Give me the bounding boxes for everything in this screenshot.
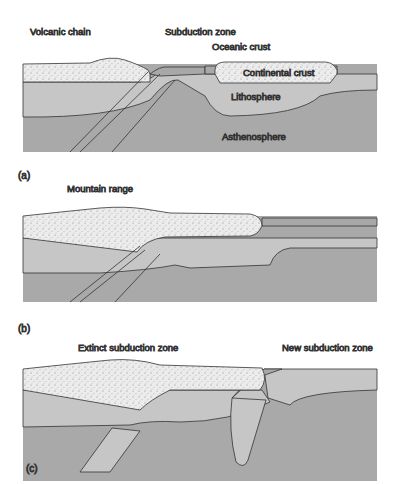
panel-label-c: (c): [26, 463, 38, 474]
label-volcanic-chain: Volcanic chain: [30, 26, 91, 37]
label-mountain-range: Mountain range: [67, 183, 133, 194]
panel-a: [23, 58, 377, 152]
label-extinct-subduction-zone: Extinct subduction zone: [78, 342, 178, 353]
label-subduction-zone: Subduction zone: [165, 26, 236, 37]
label-lithosphere: Lithosphere: [231, 91, 281, 102]
panel-label-a: (a): [18, 170, 30, 181]
panel-label-b: (b): [18, 323, 30, 334]
label-asthenosphere: Asthenosphere: [222, 131, 286, 142]
label-new-subduction-zone: New subduction zone: [282, 342, 373, 353]
label-oceanic-crust: Oceanic crust: [212, 41, 270, 52]
plate-tectonics-diagram: Volcanic chain Subduction zone Oceanic c…: [0, 0, 400, 484]
label-continental-crust: Continental crust: [243, 67, 315, 78]
